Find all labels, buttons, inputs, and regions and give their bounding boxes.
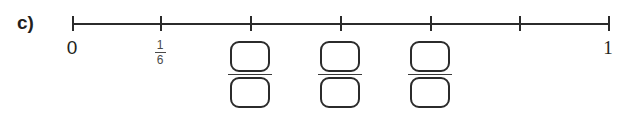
answer-fraction-field[interactable] <box>227 41 273 108</box>
fraction-denominator: 6 <box>143 54 177 66</box>
tick-mark <box>519 16 521 31</box>
tick-mark <box>608 16 610 31</box>
answer-numerator-box[interactable] <box>410 41 450 72</box>
worksheet-canvas: c) 0161 <box>0 0 640 123</box>
answer-fraction-bar <box>318 74 362 75</box>
answer-denominator-box[interactable] <box>410 77 450 108</box>
answer-fraction-field[interactable] <box>317 41 363 108</box>
axis-label-one: 1 <box>593 38 623 57</box>
answer-numerator-box[interactable] <box>320 41 360 72</box>
tick-mark <box>340 16 342 31</box>
tick-mark <box>72 16 74 31</box>
axis-label-fraction-one-sixth: 16 <box>143 39 177 66</box>
tick-mark <box>430 16 432 31</box>
answer-fraction-bar <box>408 74 452 75</box>
answer-denominator-box[interactable] <box>320 77 360 108</box>
answer-denominator-box[interactable] <box>230 77 270 108</box>
tick-mark <box>160 16 162 31</box>
fraction-numerator: 1 <box>143 39 177 51</box>
answer-fraction-bar <box>228 74 272 75</box>
tick-mark <box>250 16 252 31</box>
answer-fraction-field[interactable] <box>407 41 453 108</box>
axis-label-zero: 0 <box>57 38 87 57</box>
number-line: 0161 <box>0 0 640 123</box>
answer-numerator-box[interactable] <box>230 41 270 72</box>
